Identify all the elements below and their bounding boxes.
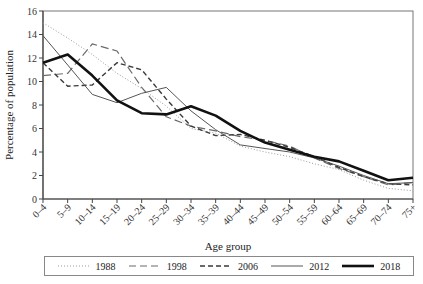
- series-layer: [43, 23, 413, 191]
- line-chart: 0246810121416 0–45–910–1415–1920–2425–29…: [0, 0, 423, 256]
- legend-swatch-long-dash: [129, 263, 161, 269]
- y-tick-label: 16: [27, 6, 37, 17]
- x-tick-label: 10–14: [72, 202, 97, 227]
- x-tick-label: 5–9: [55, 202, 73, 220]
- y-tick-label: 12: [27, 53, 37, 64]
- legend-swatch-short-dash: [200, 263, 232, 269]
- x-axis: 0–45–910–1415–1920–2425–2930–3435–3940–4…: [30, 199, 419, 227]
- y-tick-label: 4: [32, 147, 37, 158]
- series-line-1998: [43, 44, 413, 185]
- y-tick-label: 6: [32, 123, 37, 134]
- x-tick-label: 20–24: [122, 202, 147, 227]
- legend-item-1988: 1988: [58, 261, 116, 272]
- legend-label: 2018: [380, 261, 400, 272]
- y-tick-label: 14: [27, 29, 37, 40]
- x-tick-label: 50–54: [270, 202, 295, 227]
- y-tick-label: 8: [32, 100, 37, 111]
- legend-item-1998: 1998: [129, 261, 187, 272]
- legend-swatch-dotted: [58, 263, 90, 269]
- x-tick-label: 30–34: [171, 202, 196, 227]
- legend-label: 1998: [167, 261, 187, 272]
- series-line-1988: [43, 23, 413, 191]
- legend-item-2018: 2018: [342, 261, 400, 272]
- x-axis-title: Age group: [205, 240, 252, 252]
- x-tick-label: 40–44: [220, 202, 245, 227]
- x-tick-label: 65–69: [344, 202, 369, 227]
- y-tick-label: 2: [32, 170, 37, 181]
- y-tick-label: 0: [32, 194, 37, 205]
- legend-item-2006: 2006: [200, 261, 258, 272]
- x-tick-label: 45–49: [245, 202, 270, 227]
- y-axis-title: Percentage of population: [3, 50, 15, 160]
- x-tick-label: 70–74: [368, 202, 393, 227]
- x-tick-label: 55–59: [294, 202, 319, 227]
- x-tick-label: 25–29: [146, 202, 171, 227]
- legend-label: 1988: [96, 261, 116, 272]
- x-tick-label: 75+: [400, 201, 419, 220]
- legend-swatch-thick: [342, 263, 374, 269]
- y-tick-label: 10: [27, 76, 37, 87]
- series-line-2012: [43, 36, 413, 184]
- legend-swatch-solid: [271, 263, 303, 269]
- series-line-2018: [43, 55, 413, 181]
- legend: 1988 1998 2006 2012 2018: [44, 256, 414, 276]
- legend-label: 2012: [309, 261, 329, 272]
- plot-area: [43, 11, 413, 199]
- x-tick-label: 35–39: [196, 202, 221, 227]
- legend-label: 2006: [238, 261, 258, 272]
- legend-item-2012: 2012: [271, 261, 329, 272]
- x-tick-label: 60–64: [319, 202, 344, 227]
- x-tick-label: 15–19: [97, 202, 122, 227]
- y-axis: 0246810121416: [27, 6, 43, 205]
